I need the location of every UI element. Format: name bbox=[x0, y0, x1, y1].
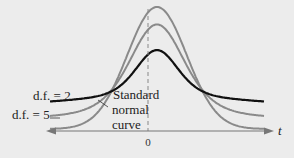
label-standard-1: Standard bbox=[113, 87, 160, 102]
x-axis-right-arrow bbox=[264, 128, 274, 135]
t-distribution-chart: 0 t d.f. = 2 d.f. = 5 Standard normal cu… bbox=[0, 0, 294, 158]
label-df5: d.f. = 5 bbox=[12, 107, 50, 122]
label-df2: d.f. = 2 bbox=[33, 88, 71, 103]
label-standard-3: curve bbox=[112, 117, 141, 132]
curve-df-5 bbox=[50, 25, 264, 116]
x-tick-label-0: 0 bbox=[145, 136, 151, 148]
label-standard-2: normal bbox=[112, 102, 149, 117]
x-axis-label: t bbox=[278, 123, 282, 138]
